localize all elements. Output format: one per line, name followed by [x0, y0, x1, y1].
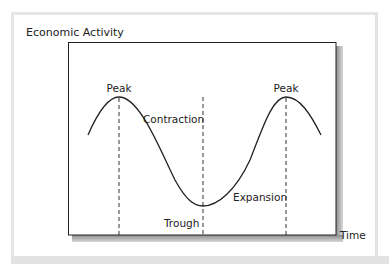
chart-shadow-right — [336, 46, 343, 242]
expansion-label: Expansion — [233, 191, 287, 203]
business-cycle-chart: Peak Peak Contraction Trough Expansion T… — [0, 0, 389, 264]
contraction-label: Contraction — [143, 113, 204, 125]
trough-label: Trough — [163, 217, 199, 229]
peak-right-label: Peak — [274, 82, 300, 94]
x-axis-label: Time — [339, 229, 366, 241]
chart-shadow-bottom — [72, 235, 343, 242]
peak-left-label: Peak — [107, 82, 133, 94]
